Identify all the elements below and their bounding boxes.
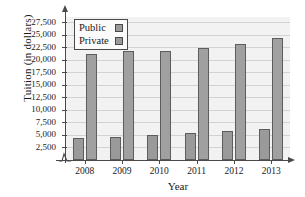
- bar-public-2012: [222, 131, 233, 160]
- axis-break-icon: [58, 150, 72, 162]
- y-axis-arrow-icon: [62, 5, 68, 12]
- legend-label-private: Private: [79, 35, 109, 46]
- x-tick-label-2009: 2009: [102, 166, 142, 176]
- y-tick-mark: [62, 47, 67, 48]
- x-tick-mark: [122, 160, 123, 164]
- bar-private-2013: [272, 38, 283, 160]
- y-tick-label-wrap: 15,000: [14, 80, 56, 89]
- x-axis-line: [56, 160, 289, 161]
- y-tick-label: 15,000: [14, 80, 56, 89]
- y-tick-label-wrap: 10,000: [14, 105, 56, 114]
- bar-public-2010: [147, 135, 158, 160]
- y-tick-label-wrap: 2,500: [14, 143, 56, 152]
- bar-private-2012: [235, 44, 246, 160]
- y-tick-label-wrap: 5,000: [14, 130, 56, 139]
- tuition-bar-chart: Tuition (in dollars) 2,5005,0007,50010,0…: [0, 0, 305, 197]
- legend-swatch-private: [115, 37, 123, 45]
- bar-public-2011: [185, 133, 196, 160]
- y-tick-label: 12,500: [14, 93, 56, 102]
- x-axis-title: Year: [66, 180, 290, 192]
- x-tick-label-2012: 2012: [214, 166, 254, 176]
- y-tick-label: 10,000: [14, 105, 56, 114]
- y-tick-mark: [62, 72, 67, 73]
- y-tick-label-wrap: 12,500: [14, 93, 56, 102]
- x-tick-label-2011: 2011: [177, 166, 217, 176]
- y-tick-mark: [62, 147, 67, 148]
- bar-public-2008: [73, 138, 84, 160]
- y-tick-label-wrap: 25,000: [14, 30, 56, 39]
- y-tick-mark: [62, 85, 67, 86]
- y-tick-mark: [62, 60, 67, 61]
- x-tick-mark: [197, 160, 198, 164]
- y-tick-mark: [62, 97, 67, 98]
- legend-item-private: Private: [79, 34, 123, 47]
- y-tick-mark: [62, 22, 67, 23]
- y-tick-label-wrap: 27,500: [14, 18, 56, 27]
- y-tick-label-wrap: 20,000: [14, 55, 56, 64]
- x-tick-label-2008: 2008: [65, 166, 105, 176]
- bar-public-2013: [259, 129, 270, 160]
- y-tick-label: 22,500: [14, 43, 56, 52]
- y-tick-label-wrap: 22,500: [14, 43, 56, 52]
- x-tick-label-2010: 2010: [139, 166, 179, 176]
- legend: Public Private: [74, 19, 128, 50]
- x-tick-mark: [159, 160, 160, 164]
- bar-private-2009: [123, 51, 134, 160]
- y-tick-label: 17,500: [14, 68, 56, 77]
- legend-swatch-public: [115, 24, 123, 32]
- bar-private-2010: [160, 51, 171, 160]
- bar-private-2011: [198, 48, 209, 160]
- bar-public-2009: [110, 137, 121, 160]
- y-tick-mark: [62, 135, 67, 136]
- legend-label-public: Public: [79, 22, 106, 33]
- x-tick-label-2013: 2013: [251, 166, 291, 176]
- x-tick-mark: [85, 160, 86, 164]
- y-tick-label: 25,000: [14, 30, 56, 39]
- x-tick-mark: [234, 160, 235, 164]
- x-tick-mark: [271, 160, 272, 164]
- y-tick-mark: [62, 35, 67, 36]
- y-tick-label: 20,000: [14, 55, 56, 64]
- y-axis-line: [65, 10, 66, 163]
- y-tick-label-wrap: 7,500: [14, 118, 56, 127]
- y-tick-label: 7,500: [14, 118, 56, 127]
- y-tick-label-wrap: 17,500: [14, 68, 56, 77]
- x-axis-arrow-icon: [288, 157, 295, 163]
- y-tick-mark: [62, 110, 67, 111]
- bar-private-2008: [86, 54, 97, 160]
- legend-item-public: Public: [79, 21, 123, 34]
- y-tick-label: 5,000: [14, 130, 56, 139]
- y-tick-label: 27,500: [14, 18, 56, 27]
- y-tick-mark: [62, 122, 67, 123]
- y-tick-label: 2,500: [14, 143, 56, 152]
